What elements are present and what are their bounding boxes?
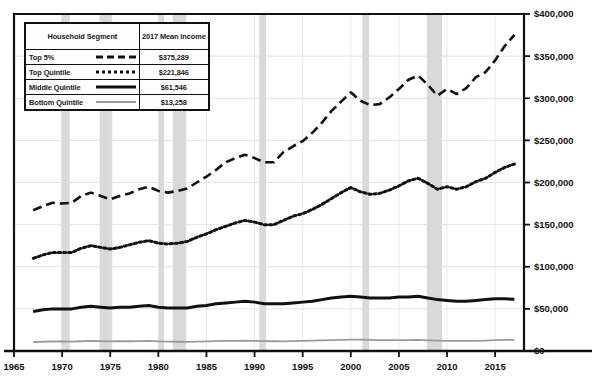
y-tick-label: $400,000 [534, 8, 574, 19]
y-tick-label-group: $0$50,000$100,000$150,000$200,000$250,00… [534, 8, 574, 356]
legend-value-middle-quintile: $61,546 [140, 80, 208, 94]
x-tick-label: 1980 [148, 361, 169, 372]
y-tick-label: $350,000 [534, 51, 574, 62]
legend-cell-segment: Middle Quintile [26, 80, 140, 94]
legend-header-row: Household Segment 2017 Mean Income [26, 24, 208, 50]
legend-header-segment: Household Segment [26, 24, 140, 50]
legend-label-middle-quintile: Middle Quintile [29, 83, 94, 92]
y-tick-label: $100,000 [534, 261, 574, 272]
x-tick-label: 2010 [436, 361, 457, 372]
y-tick-label: $300,000 [534, 93, 574, 104]
y-tick-label: $200,000 [534, 177, 574, 188]
dotted-line-swatch-icon [96, 67, 136, 77]
legend-cell-segment: Top 5% [26, 50, 140, 64]
x-tick-label: 2000 [340, 361, 361, 372]
y-tick-label: $0 [534, 345, 545, 356]
x-tick-label: 2015 [485, 361, 507, 372]
legend-cell-segment: Top Quintile [26, 65, 140, 79]
legend-table: Household Segment 2017 Mean Income Top 5… [24, 22, 210, 111]
legend-row-top-quintile: Top Quintile $221,846 [26, 65, 208, 80]
legend-cell-segment: Bottom Quintile [26, 95, 140, 109]
legend-value-top-quintile: $221,846 [140, 65, 208, 79]
x-tick-label: 2005 [388, 361, 410, 372]
legend-row-middle-quintile: Middle Quintile $61,546 [26, 80, 208, 95]
income-by-segment-chart: $0$50,000$100,000$150,000$200,000$250,00… [0, 0, 596, 388]
y-tick-label: $250,000 [534, 135, 574, 146]
legend-row-bottom-quintile: Bottom Quintile $13,258 [26, 95, 208, 109]
legend-value-bottom-quintile: $13,258 [140, 95, 208, 109]
x-tick-label: 1970 [52, 361, 73, 372]
legend-header-income: 2017 Mean Income [140, 24, 208, 50]
dashed-line-swatch-icon [96, 52, 136, 62]
x-tick-label-group: 1965197019751980198519901995200020052010… [3, 361, 506, 372]
x-tick-label: 1990 [244, 361, 265, 372]
x-tick-label: 1985 [196, 361, 218, 372]
x-tick-label: 1995 [292, 361, 314, 372]
thin-line-swatch-icon [96, 97, 136, 107]
legend-label-top-quintile: Top Quintile [29, 68, 94, 77]
y-tick-label: $50,000 [534, 303, 568, 314]
legend-row-top5: Top 5% $375,289 [26, 50, 208, 65]
x-tick-label: 1975 [100, 361, 122, 372]
y-tick-label: $150,000 [534, 219, 574, 230]
legend-label-top5: Top 5% [29, 53, 94, 62]
x-tick-label: 1965 [3, 361, 25, 372]
solid-line-swatch-icon [96, 82, 136, 92]
legend-label-bottom-quintile: Bottom Quintile [29, 98, 94, 107]
legend-value-top5: $375,289 [140, 50, 208, 64]
